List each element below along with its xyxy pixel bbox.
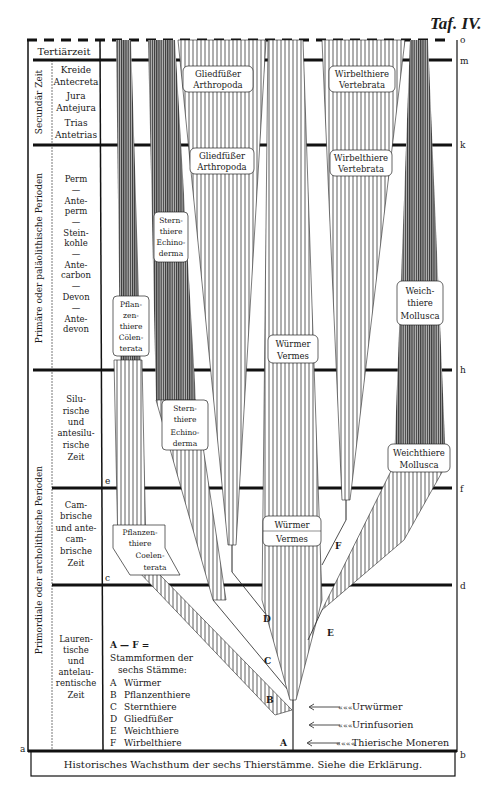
svg-text:Pflanzenthiere: Pflanzenthiere: [124, 690, 190, 700]
svg-text:Stein-: Stein-: [63, 228, 88, 238]
svg-text:D: D: [263, 614, 271, 624]
svg-text:F: F: [110, 738, 116, 748]
svg-text:Zeit: Zeit: [67, 452, 85, 462]
arrow-icon: ««««: [307, 739, 356, 748]
svg-text:k: k: [460, 140, 466, 150]
svg-text:Silu-: Silu-: [66, 394, 86, 404]
svg-text:D: D: [110, 714, 117, 724]
svg-text:Vermes: Vermes: [275, 534, 308, 544]
svg-text:A — F =: A — F =: [109, 640, 149, 650]
periods-primary: Perm — Ante- perm — Stein- kohle — Ante-…: [61, 174, 91, 334]
svg-text:terata: terata: [120, 344, 144, 353]
svg-text:Wirbelthiere: Wirbelthiere: [124, 738, 182, 748]
svg-text:thiere: thiere: [407, 298, 433, 308]
root-annotations: ««« Urwürmer ««« Urinfusorien «««« Thier…: [307, 701, 449, 748]
svg-text:F: F: [335, 541, 342, 551]
svg-text:C: C: [110, 702, 117, 712]
svg-text:Zeit: Zeit: [67, 558, 85, 568]
svg-text:cam-: cam-: [66, 534, 87, 544]
svg-text:rische: rische: [63, 440, 89, 450]
svg-text:h: h: [460, 365, 466, 375]
periods-cambrian: Cam- brische und ante- cam- brische Zeit: [56, 500, 97, 568]
svg-text:B: B: [110, 690, 117, 700]
era-tertiary: Tertiärzeit: [38, 46, 91, 57]
label-vertebrata-mid: Wirbelthiere Vertebrata: [330, 150, 392, 176]
svg-text:Antecreta: Antecreta: [53, 77, 100, 87]
label-mollusca-upper: Weich- thiere Mollusca: [397, 281, 443, 325]
svg-text:Sternthiere: Sternthiere: [124, 702, 176, 712]
svg-text:tische: tische: [63, 645, 89, 655]
svg-text:C: C: [264, 656, 271, 666]
era-primary: Primäre oder paläolithische Perioden: [34, 173, 44, 343]
svg-text:E: E: [110, 726, 117, 736]
label-vermes-upper: Würmer Vermes: [268, 335, 318, 363]
svg-text:o: o: [460, 35, 465, 45]
svg-text:Coelen-: Coelen-: [136, 551, 165, 560]
svg-text:Gliedfüßer: Gliedfüßer: [195, 69, 242, 79]
svg-text:Würmer: Würmer: [274, 520, 310, 530]
label-arthropoda-mid: Gliedfüßer Arthropoda: [190, 148, 254, 174]
svg-text:A: A: [279, 738, 288, 748]
svg-text:Perm: Perm: [65, 174, 88, 184]
svg-text:terata: terata: [144, 563, 168, 572]
svg-text:Stern-: Stern-: [173, 404, 197, 413]
svg-text:antelau-: antelau-: [58, 667, 93, 677]
svg-text:Würmer: Würmer: [275, 339, 311, 349]
svg-text:Cam-: Cam-: [65, 500, 88, 510]
svg-text:Weich-: Weich-: [406, 286, 435, 296]
branch-arthropoda: [178, 40, 272, 622]
svg-text:—: —: [72, 303, 81, 313]
svg-text:a: a: [20, 744, 26, 754]
svg-text:Antetrias: Antetrias: [54, 130, 97, 140]
svg-text:Pflanzen-: Pflanzen-: [122, 528, 158, 537]
periods-laurentian: Lauren- tische und antelau- rentische Ze…: [56, 634, 96, 700]
svg-text:und: und: [68, 656, 85, 666]
svg-text:Mollusca: Mollusca: [401, 311, 440, 321]
svg-text:Gliedfüßer: Gliedfüßer: [199, 151, 246, 161]
label-arthropoda-top: Gliedfüßer Arthropoda: [183, 66, 253, 92]
svg-text:—: —: [72, 281, 81, 291]
periods-silurian: Silu- rische und antesilu- rische Zeit: [57, 394, 94, 462]
svg-text:kohle: kohle: [64, 238, 88, 248]
label-coelenterata-upper: Pflan- zen- thiere Cölen- terata: [113, 296, 149, 356]
svg-text:A: A: [109, 678, 117, 688]
svg-text:Gliedfüßer: Gliedfüßer: [124, 714, 173, 724]
label-mollusca-lower: Weichthiere Mollusca: [388, 444, 450, 472]
svg-text:e: e: [105, 476, 110, 486]
svg-text:thiere: thiere: [120, 322, 143, 331]
label-echinoderma-lower: Stern- thiere Echino- derma: [162, 400, 208, 450]
svg-text:Zeit: Zeit: [67, 690, 85, 700]
svg-text:Devon: Devon: [62, 292, 90, 302]
label-vermes-lower: Würmer Vermes: [263, 516, 321, 546]
svg-text:c: c: [105, 573, 110, 583]
svg-text:Ante-: Ante-: [64, 196, 88, 206]
svg-text:Wirbelthiere: Wirbelthiere: [335, 69, 389, 79]
svg-text:Urinfusorien: Urinfusorien: [352, 719, 413, 730]
svg-text:Weichthiere: Weichthiere: [124, 726, 179, 736]
svg-text:Thierische Moneren: Thierische Moneren: [352, 737, 449, 748]
label-echinoderma-upper: Stern- thiere Echino- derma: [154, 212, 188, 262]
svg-text:Kreide: Kreide: [61, 65, 91, 75]
era-primordial: Primordiale oder archolithische Perioden: [34, 466, 44, 655]
svg-text:perm: perm: [65, 206, 88, 216]
svg-text:m: m: [460, 56, 469, 66]
svg-text:Jura: Jura: [65, 91, 86, 101]
svg-text:Ante-: Ante-: [64, 260, 88, 270]
svg-text:Weichthiere: Weichthiere: [393, 448, 445, 458]
svg-text:E: E: [327, 628, 334, 638]
svg-text:zen-: zen-: [123, 311, 139, 320]
svg-text:Stammformen der: Stammformen der: [110, 653, 194, 663]
svg-text:thiere: thiere: [129, 539, 152, 548]
svg-text:Arthropoda: Arthropoda: [192, 80, 242, 90]
svg-text:Trias: Trias: [64, 118, 88, 128]
svg-text:—: —: [72, 217, 81, 227]
svg-text:brische: brische: [60, 546, 92, 556]
svg-text:Vertebrata: Vertebrata: [338, 80, 385, 90]
svg-text:thiere: thiere: [160, 227, 183, 236]
svg-text:brische: brische: [60, 511, 92, 521]
svg-text:—: —: [72, 185, 81, 195]
svg-text:thiere: thiere: [174, 415, 197, 424]
plate-title: Taf. IV.: [430, 14, 482, 33]
svg-text:derma: derma: [159, 249, 184, 258]
svg-text:und ante-: und ante-: [56, 523, 97, 533]
